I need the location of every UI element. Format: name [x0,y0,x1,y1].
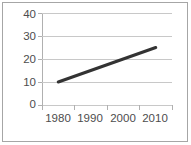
y-axis-label-40: 40 [8,9,36,20]
gridline-20 [42,59,172,60]
x-axis-label-1980: 1980 [45,112,71,125]
x-axis-tick-3 [139,105,140,110]
x-axis-label-1990: 1990 [77,112,103,125]
y-axis-label-20: 20 [8,54,36,65]
chart-screenshot: 40 30 20 10 0 1980 1990 2000 2010 [0,0,191,145]
gridline-10 [42,82,172,83]
x-axis-tick-2 [107,105,108,110]
x-axis-tick-start [42,105,43,110]
x-axis-label-2000: 2000 [110,112,136,125]
gridline-40 [42,13,172,14]
x-axis-tick-1 [74,105,75,110]
y-axis-label-30: 30 [8,31,36,42]
y-axis-label-0: 0 [8,99,36,110]
x-axis-label-2010: 2010 [142,112,168,125]
y-axis-labels: 40 30 20 10 0 [3,0,36,145]
gridline-30 [42,36,172,37]
x-axis-tick-end [172,105,173,110]
y-axis-label-10: 10 [8,77,36,88]
plot-area [42,13,172,105]
